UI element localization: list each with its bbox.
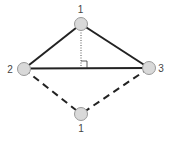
label-top: 1 <box>78 4 84 15</box>
edge-top-right <box>81 24 149 68</box>
label-bottom: 1 <box>78 123 84 134</box>
node-right <box>143 62 156 75</box>
node-top <box>75 18 88 31</box>
edge-right-bottom <box>81 68 149 114</box>
label-left: 2 <box>7 64 13 75</box>
edge-left-bottom <box>24 69 81 114</box>
node-left <box>18 63 31 76</box>
edge-top-left <box>24 24 81 69</box>
right-angle-marker <box>81 61 87 68</box>
label-right: 3 <box>158 63 164 74</box>
node-bottom <box>75 108 88 121</box>
triangle-diagram: 1 2 3 1 <box>0 0 173 141</box>
edge-left-right <box>24 68 149 69</box>
